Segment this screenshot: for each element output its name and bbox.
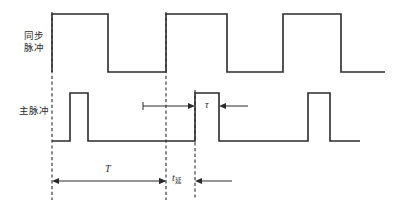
sync-pulse-waveform [52,14,385,72]
delay-label: t延 [172,172,182,185]
tau-right-arrowhead [219,103,226,109]
sync-pulse-label: 同步 脉冲 [14,30,54,53]
delay-label-subscript: 延 [175,177,182,185]
tau-left-arrowhead [188,103,195,109]
tau-label: τ [205,99,209,110]
sync-pulse-label-line2: 脉冲 [14,42,54,54]
period-dimension-group [52,178,166,184]
pulse-timing-diagram: 同步 脉冲 主脉冲 τ T t延 [0,0,395,216]
main-pulse-label: 主脉冲 [14,105,54,117]
delay-right-arrowhead [195,178,202,184]
period-label: T [105,163,111,174]
waveform-canvas [0,0,395,216]
sync-pulse-label-line1: 同步 [14,30,54,42]
period-left-arrowhead [52,178,59,184]
delay-left-arrowhead [159,178,166,184]
